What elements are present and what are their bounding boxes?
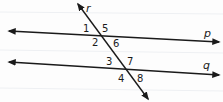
angle-1: 1	[83, 23, 89, 34]
parallel-lines-diagram: r p q 1 5 2 6 3 7 4 8	[0, 0, 223, 102]
label-p: p	[203, 27, 211, 40]
background-rule	[0, 88, 223, 91]
angle-4: 4	[118, 73, 124, 84]
angle-6: 6	[113, 38, 119, 49]
angle-7: 7	[127, 56, 133, 67]
label-q: q	[203, 59, 210, 72]
line-q	[9, 62, 219, 75]
angle-2: 2	[92, 37, 98, 48]
angle-5: 5	[102, 23, 108, 34]
diagram-canvas: r p q 1 5 2 6 3 7 4 8	[0, 0, 223, 102]
angle-3: 3	[106, 56, 112, 67]
background-rule	[0, 12, 223, 14]
angle-8: 8	[137, 73, 143, 84]
